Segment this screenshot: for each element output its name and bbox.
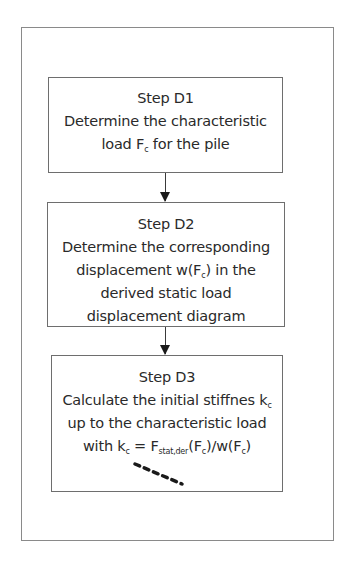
arrow-d2-to-d3 bbox=[165, 327, 166, 354]
step-d2-line-1: Determine the corresponding bbox=[48, 236, 284, 259]
step-d2-line-4: displacement diagram bbox=[48, 305, 284, 328]
step-d3-line-1: Calculate the initial stiffnes kc bbox=[52, 389, 282, 412]
step-d3-line-2: up to the characteristic load bbox=[52, 412, 282, 435]
step-d3-formula: with kc = Fstat,der(Fc)/w(Fc) bbox=[52, 435, 282, 458]
step-d3-title: Step D3 bbox=[52, 366, 282, 389]
step-d2-line-3: derived static load bbox=[48, 282, 284, 305]
arrow-d1-to-d2 bbox=[165, 173, 166, 201]
continuation-dashed-line bbox=[130, 458, 190, 490]
step-d2-line-2: displacement w(Fc) in the bbox=[48, 259, 284, 282]
step-d1-box: Step D1 Determine the characteristic loa… bbox=[48, 77, 283, 173]
step-d1-line-2: load Fc for the pile bbox=[49, 133, 282, 156]
step-d1-line-1: Determine the characteristic bbox=[49, 110, 282, 133]
step-d1-title: Step D1 bbox=[49, 87, 282, 110]
step-d2-box: Step D2 Determine the corresponding disp… bbox=[47, 202, 285, 327]
step-d2-title: Step D2 bbox=[48, 213, 284, 236]
